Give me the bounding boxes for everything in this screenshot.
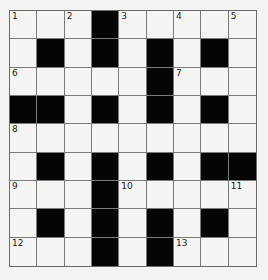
black-square xyxy=(201,39,228,67)
clue-number: 10 xyxy=(121,182,132,191)
crossword-cell[interactable] xyxy=(119,124,146,152)
crossword-cell[interactable]: 4 xyxy=(174,11,201,39)
crossword-cell[interactable] xyxy=(174,181,201,209)
crossword-cell[interactable] xyxy=(92,124,119,152)
crossword-cell[interactable]: 2 xyxy=(65,11,92,39)
black-square xyxy=(37,39,64,67)
clue-number: 4 xyxy=(176,12,182,21)
clue-number: 5 xyxy=(231,12,237,21)
crossword-cell[interactable]: 13 xyxy=(174,238,201,266)
black-square xyxy=(37,153,64,181)
black-square xyxy=(92,96,119,124)
clue-number: 13 xyxy=(176,239,187,248)
crossword-cell[interactable] xyxy=(119,238,146,266)
crossword-cell[interactable]: 8 xyxy=(10,124,37,152)
crossword-cell[interactable] xyxy=(229,39,256,67)
crossword-cell[interactable] xyxy=(201,181,228,209)
crossword-cell[interactable] xyxy=(65,124,92,152)
black-square xyxy=(201,209,228,237)
clue-number: 12 xyxy=(12,239,23,248)
clue-number: 3 xyxy=(121,12,127,21)
crossword-cell[interactable] xyxy=(37,238,64,266)
crossword-cell[interactable] xyxy=(201,124,228,152)
crossword-cell[interactable]: 7 xyxy=(174,68,201,96)
crossword-cell[interactable]: 9 xyxy=(10,181,37,209)
clue-number: 2 xyxy=(67,12,73,21)
crossword-cell[interactable] xyxy=(10,209,37,237)
black-square xyxy=(92,238,119,266)
crossword-cell[interactable] xyxy=(201,238,228,266)
crossword-cell[interactable] xyxy=(65,39,92,67)
clue-number: 11 xyxy=(231,182,242,191)
black-square xyxy=(147,68,174,96)
black-square xyxy=(201,153,228,181)
black-square xyxy=(147,238,174,266)
black-square xyxy=(37,209,64,237)
black-square xyxy=(147,39,174,67)
crossword-cell[interactable] xyxy=(174,209,201,237)
clue-number: 8 xyxy=(12,125,18,134)
crossword-cell[interactable] xyxy=(65,153,92,181)
crossword-grid: 12345678910111213 xyxy=(9,10,257,267)
crossword-cell[interactable] xyxy=(201,11,228,39)
crossword-cell[interactable] xyxy=(119,153,146,181)
crossword-cell[interactable] xyxy=(65,181,92,209)
black-square xyxy=(147,153,174,181)
clue-number: 1 xyxy=(12,12,18,21)
crossword-cell[interactable] xyxy=(65,96,92,124)
crossword-cell[interactable] xyxy=(174,153,201,181)
crossword-cell[interactable] xyxy=(92,68,119,96)
black-square xyxy=(37,96,64,124)
crossword-cell[interactable] xyxy=(174,96,201,124)
black-square xyxy=(92,209,119,237)
crossword-cell[interactable]: 11 xyxy=(229,181,256,209)
crossword-cell[interactable] xyxy=(147,124,174,152)
crossword-cell[interactable] xyxy=(37,124,64,152)
crossword-cell[interactable] xyxy=(147,11,174,39)
crossword-cell[interactable] xyxy=(229,68,256,96)
crossword-cell[interactable]: 12 xyxy=(10,238,37,266)
black-square xyxy=(147,209,174,237)
crossword-cell[interactable] xyxy=(229,238,256,266)
crossword-cell[interactable] xyxy=(201,68,228,96)
black-square xyxy=(229,153,256,181)
black-square xyxy=(201,96,228,124)
black-square xyxy=(92,153,119,181)
crossword-cell[interactable] xyxy=(119,39,146,67)
clue-number: 7 xyxy=(176,69,182,78)
crossword-cell[interactable] xyxy=(37,11,64,39)
crossword-cell[interactable] xyxy=(229,96,256,124)
crossword-cell[interactable]: 5 xyxy=(229,11,256,39)
crossword-cell[interactable] xyxy=(174,124,201,152)
black-square xyxy=(92,11,119,39)
crossword-cell[interactable] xyxy=(10,39,37,67)
crossword-cell[interactable] xyxy=(65,68,92,96)
crossword-cell[interactable] xyxy=(119,209,146,237)
crossword-cell[interactable] xyxy=(229,124,256,152)
crossword-cell[interactable]: 10 xyxy=(119,181,146,209)
crossword-cell[interactable] xyxy=(174,39,201,67)
black-square xyxy=(147,96,174,124)
clue-number: 6 xyxy=(12,69,18,78)
crossword-cell[interactable] xyxy=(10,153,37,181)
black-square xyxy=(10,96,37,124)
black-square xyxy=(92,181,119,209)
crossword-cell[interactable] xyxy=(147,181,174,209)
crossword-cell[interactable]: 3 xyxy=(119,11,146,39)
black-square xyxy=(92,39,119,67)
crossword-cell[interactable]: 6 xyxy=(10,68,37,96)
crossword-cell[interactable] xyxy=(37,181,64,209)
crossword-cell[interactable]: 1 xyxy=(10,11,37,39)
crossword-cell[interactable] xyxy=(65,238,92,266)
clue-number: 9 xyxy=(12,182,18,191)
crossword-cell[interactable] xyxy=(37,68,64,96)
crossword-cell[interactable] xyxy=(119,68,146,96)
crossword-cell[interactable] xyxy=(229,209,256,237)
crossword-cell[interactable] xyxy=(65,209,92,237)
crossword-cell[interactable] xyxy=(119,96,146,124)
